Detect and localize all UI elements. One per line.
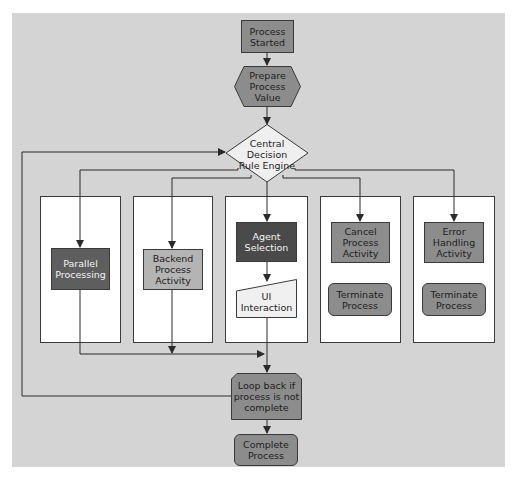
node-label: Parallel Processing [53, 258, 108, 280]
node-label: Backend Process Activity [148, 253, 198, 286]
node-label: Terminate Process [427, 289, 482, 311]
node-terminate-process-cancel: Terminate Process [328, 283, 392, 316]
node-parallel-processing: Parallel Processing [51, 248, 110, 290]
node-label: Process Started [248, 26, 288, 48]
lane-cancel-process [320, 196, 401, 343]
node-ui-interaction: UI Interaction [236, 279, 297, 318]
node-label: Cancel Process Activity [338, 226, 383, 259]
lane-error-handling [413, 196, 495, 343]
node-label: Complete Process [239, 439, 294, 461]
node-terminate-process-error: Terminate Process [422, 283, 486, 316]
node-central-decision-rule-engine: Central Decision Rule Engine [225, 124, 309, 184]
node-loop-back: Loop back if process is not complete [231, 373, 302, 420]
node-backend-process-activity: Backend Process Activity [143, 249, 203, 290]
node-agent-selection: Agent Selection [236, 222, 297, 262]
node-label: Agent Selection [244, 231, 289, 253]
node-label: Loop back if process is not complete [234, 380, 300, 413]
node-label: Error Handling Activity [429, 226, 479, 259]
node-prepare-process-value: Prepare Process Value [234, 66, 301, 107]
node-process-started: Process Started [241, 20, 294, 53]
lane-agent-selection [225, 196, 308, 343]
node-error-handling-activity: Error Handling Activity [424, 222, 484, 263]
node-cancel-process-activity: Cancel Process Activity [331, 222, 390, 263]
node-label: Terminate Process [333, 289, 388, 311]
flowchart-canvas: Process Started Prepare Process Value Ce… [0, 0, 515, 482]
node-label: Prepare Process Value [248, 70, 288, 103]
node-label: Central Decision Rule Engine [235, 138, 299, 171]
node-label: UI Interaction [239, 291, 294, 313]
node-complete-process: Complete Process [234, 434, 298, 466]
